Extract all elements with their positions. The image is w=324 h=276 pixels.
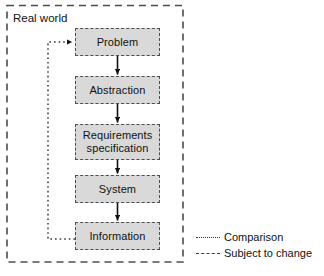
node-abstraction-label: Abstraction [87,84,147,97]
legend-item-subject-to-change: Subject to change [196,247,312,259]
real-world-label: Real world [13,12,67,24]
legend-item-comparison-label: Comparison [224,231,283,243]
dashed-line-icon [196,253,220,254]
node-requirements-specification[interactable]: Requirements specification [75,124,160,160]
node-information[interactable]: Information [75,222,160,250]
dotted-line-icon [196,237,220,238]
legend-item-comparison: Comparison [196,231,283,243]
node-system-label: System [97,183,138,196]
node-problem-label: Problem [95,36,141,49]
feedback-comparison-path [48,42,75,239]
node-problem[interactable]: Problem [75,28,160,56]
legend-item-subject-to-change-label: Subject to change [224,247,312,259]
node-abstraction[interactable]: Abstraction [75,76,160,104]
node-requirements-specification-label: Requirements specification [81,129,155,155]
node-information-label: Information [87,230,147,243]
diagram-canvas: Real world Problem Abstraction Requireme… [0,0,324,276]
node-system[interactable]: System [75,175,160,203]
